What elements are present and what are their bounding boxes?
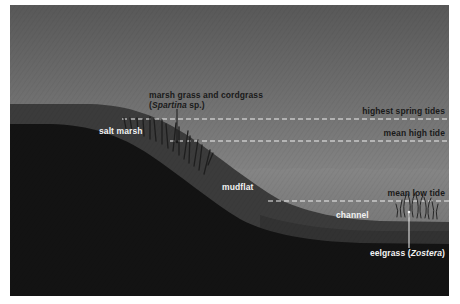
diagram-frame: marsh grass and cordgrass (Spartina sp.)… — [10, 5, 449, 296]
mean-low-tide-label: mean low tide — [387, 188, 445, 198]
channel-label: channel — [336, 210, 369, 220]
marsh-grass-label-line2: (Spartina sp.) — [149, 100, 263, 110]
mean-high-tide-label: mean high tide — [384, 128, 445, 138]
marsh-grass-label-line1: marsh grass and cordgrass — [149, 90, 263, 100]
marsh-grass-label: marsh grass and cordgrass (Spartina sp.) — [149, 90, 263, 110]
highest-spring-tides-label: highest spring tides — [362, 106, 445, 116]
salt-marsh-label: salt marsh — [99, 126, 143, 136]
mudflat-label: mudflat — [222, 182, 253, 192]
eelgrass-label: eelgrass (Zostera) — [370, 248, 445, 258]
